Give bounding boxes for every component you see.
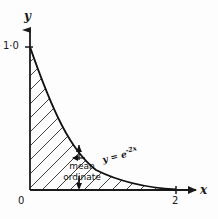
curve-equation-exponent: -2x (125, 144, 138, 154)
exponential-decay-figure: y x 1·0 0 2 mean ordinate y = e-2x (0, 0, 218, 219)
mean-ordinate-label-line1: mean (56, 161, 108, 172)
mean-ordinate-annotation: mean ordinate (56, 161, 108, 182)
y-axis-label: y (24, 10, 31, 22)
shaded-area-hatching (0, 0, 218, 219)
x-axis-label: x (200, 184, 207, 196)
x-tick-label-two: 2 (172, 196, 178, 206)
mean-ordinate-label-line2: ordinate (56, 172, 108, 183)
origin-tick-label: 0 (18, 196, 24, 206)
figure-canvas (0, 0, 218, 219)
y-tick-label-one: 1·0 (3, 41, 19, 51)
